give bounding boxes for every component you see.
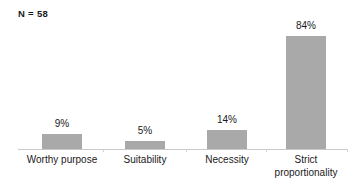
category-label: Strictproportionality <box>251 154 361 179</box>
x-axis-tick <box>186 149 187 152</box>
bar-value-label: 14% <box>197 114 257 125</box>
x-axis-line <box>18 149 348 150</box>
bar <box>286 36 326 149</box>
bar-value-label: 84% <box>276 20 336 31</box>
bar <box>207 130 247 149</box>
bar <box>125 141 165 149</box>
x-axis-tick <box>266 149 267 152</box>
bar-value-label: 5% <box>115 125 175 136</box>
bar <box>42 134 82 149</box>
plot-area: 9%5%14%84% Worthy purposeSuitabilityNece… <box>0 0 362 192</box>
x-axis-tick <box>347 149 348 152</box>
category-label-line: proportionality <box>251 167 361 180</box>
bar-chart-figure: N = 58 9%5%14%84% Worthy purposeSuitabil… <box>0 0 362 192</box>
x-axis-tick <box>103 149 104 152</box>
bar-value-label: 9% <box>32 118 92 129</box>
category-label-line: Strict <box>251 154 361 167</box>
